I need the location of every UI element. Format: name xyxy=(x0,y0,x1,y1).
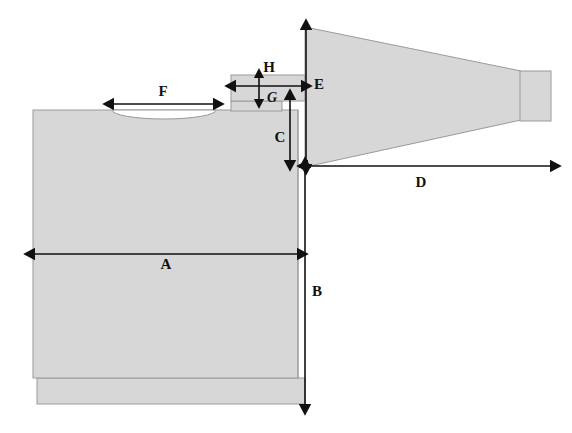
dimension-A-label: A xyxy=(161,256,172,272)
dimension-C-label: C xyxy=(275,129,286,145)
dimension-G-label: G xyxy=(267,90,277,105)
dimension-H-label: H xyxy=(263,59,275,75)
dimension-D-label: D xyxy=(416,174,427,190)
dimension-F-label: F xyxy=(158,83,167,99)
diagram-canvas: A B C D E F G xyxy=(0,0,572,433)
horn-cone xyxy=(305,27,521,167)
machine-outline xyxy=(33,27,551,404)
nozzle xyxy=(520,71,551,121)
dimension-D: D xyxy=(308,166,550,190)
base-plinth xyxy=(37,378,305,404)
dimension-diagram: A B C D E F G xyxy=(0,0,572,433)
dimension-B: B xyxy=(305,168,322,404)
dimension-B-label: B xyxy=(312,283,322,299)
dimension-E-label: E xyxy=(314,76,324,92)
dimension-F: F xyxy=(114,83,213,104)
main-body xyxy=(33,110,298,378)
